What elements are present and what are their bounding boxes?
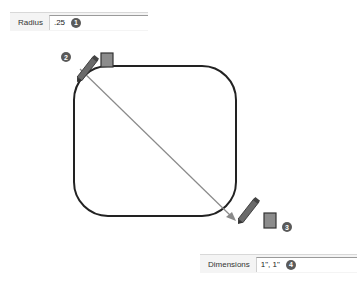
pencil-icon (236, 197, 260, 226)
step-badge-2: 2 (61, 52, 71, 62)
dimensions-input[interactable]: 1", 1" 4 (256, 257, 357, 272)
dimensions-label: Dimensions (200, 260, 256, 269)
step-badge-4: 4 (286, 260, 296, 270)
pencil-icon (75, 55, 99, 84)
radius-value: .25 (54, 18, 65, 27)
radius-input[interactable]: .25 1 (49, 15, 148, 30)
diagonal-drag-line (80, 69, 232, 217)
rounded-rectangle (74, 66, 236, 216)
step-badge-3: 3 (282, 222, 292, 232)
step-badge-1: 1 (71, 18, 81, 28)
rectangle-tool-icon (101, 53, 113, 67)
drawing-canvas (0, 0, 361, 283)
radius-measurement-box: Radius .25 1 (10, 12, 148, 31)
dimensions-measurement-box: Dimensions 1", 1" 4 (200, 254, 357, 273)
rectangle-tool-icon (264, 213, 276, 228)
radius-label: Radius (10, 18, 49, 27)
dimensions-value: 1", 1" (261, 260, 280, 269)
